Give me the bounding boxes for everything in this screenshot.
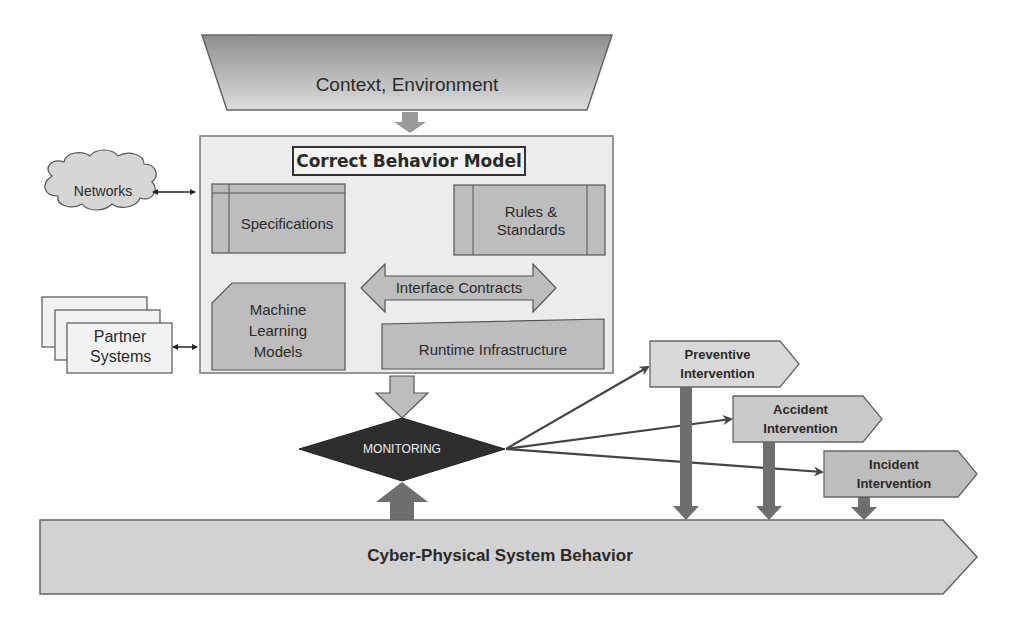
accident-intervention-shape	[733, 396, 882, 442]
correct-behavior-model-title: Correct Behavior Model	[292, 146, 526, 176]
context-down-arrow	[394, 112, 426, 133]
cyber-physical-system-shape	[40, 520, 977, 594]
runtime-infrastructure-shape	[382, 319, 604, 369]
monitoring-to-accident-line	[506, 419, 731, 449]
model-to-monitoring-arrow	[376, 376, 428, 418]
monitoring-to-preventive-line	[506, 367, 648, 449]
system-to-monitoring-arrow	[376, 482, 428, 520]
accident-down-arrow	[756, 442, 782, 520]
incident-down-arrow	[851, 497, 877, 520]
preventive-intervention-shape	[650, 341, 799, 387]
monitoring-diamond	[299, 418, 505, 481]
specifications-shape	[212, 184, 345, 253]
rules-standards-shape	[454, 185, 605, 255]
diagram-canvas	[0, 0, 1011, 622]
networks-cloud	[45, 150, 156, 210]
context-environment-shape	[202, 35, 612, 110]
ml-models-shape	[212, 283, 345, 370]
partner-systems-stack	[42, 297, 172, 373]
preventive-down-arrow	[673, 387, 699, 520]
incident-intervention-shape	[824, 451, 977, 497]
